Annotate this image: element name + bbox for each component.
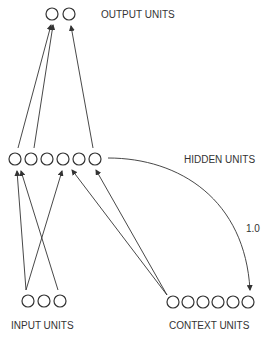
- output-units-label: OUTPUT UNITS: [101, 9, 175, 20]
- recurrent-weight-label: 1.0: [246, 223, 260, 234]
- input-units: [22, 295, 66, 307]
- elman-network-diagram: OUTPUT UNITS HIDDEN UNITS 1.0 INPUT UNIT…: [0, 0, 269, 340]
- context-units-label: CONTEXT UNITS: [169, 320, 249, 331]
- output-units: [46, 8, 75, 20]
- input-units-label: INPUT UNITS: [11, 320, 74, 331]
- recurrent-copy-arrow: [108, 158, 250, 290]
- network-graph: [0, 0, 269, 340]
- hidden-units: [9, 153, 101, 165]
- context-units: [167, 296, 254, 308]
- hidden-units-label: HIDDEN UNITS: [184, 154, 255, 165]
